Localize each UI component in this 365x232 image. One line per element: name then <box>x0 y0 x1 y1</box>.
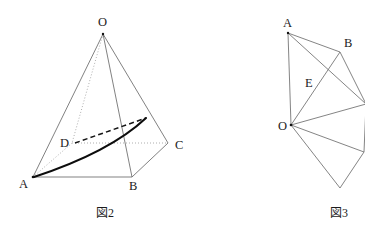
net-label-O: O <box>278 119 287 133</box>
net-edge-A-B <box>288 33 340 52</box>
net-edge-B-R1 <box>340 52 365 104</box>
caption-figure-3: 図3 <box>330 206 348 220</box>
net-edge-B-O <box>291 52 340 125</box>
net-label-E: E <box>305 76 313 90</box>
net-vertex-dot-A <box>287 32 289 34</box>
figure-canvas: O A B C D 図2 <box>0 0 365 232</box>
net-label-B: B <box>344 36 352 50</box>
net-edge-O-R1 <box>291 104 365 125</box>
net-edge-A-R1 <box>288 33 365 104</box>
net-label-A: A <box>283 16 292 30</box>
net-vertex-dot-O <box>290 124 293 127</box>
net-edge-A-O <box>288 33 291 125</box>
net-figure: A B E O 図3 <box>0 0 365 232</box>
net-edge-R2-R3 <box>340 152 364 188</box>
net-edges-group <box>288 33 365 188</box>
